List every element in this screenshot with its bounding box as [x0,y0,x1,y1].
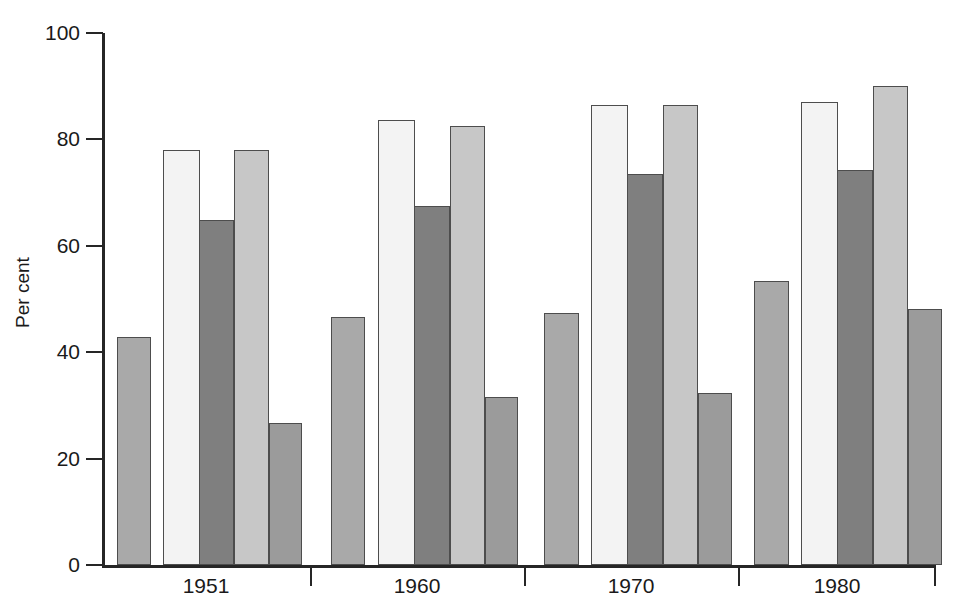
y-axis-tick-label: 100 [32,22,80,43]
bar [801,102,838,565]
bar [414,206,450,565]
bar [331,317,365,565]
x-axis-end-tick [934,568,936,586]
y-axis-tick-label: 0 [32,554,80,575]
x-axis-group-label: 1970 [561,574,701,598]
x-axis-separator-tick [738,568,740,586]
y-axis-tick-label-wrap: 0 [22,554,80,575]
bar [627,174,663,565]
bar [117,337,151,565]
y-axis-tick [86,245,103,247]
x-axis-group-label: 1951 [136,574,276,598]
bar [378,120,415,565]
bar-chart: Per cent 020406080100 1951196019701980 [0,0,970,616]
bar [269,423,302,565]
bar [873,86,908,565]
y-axis-line [102,33,105,565]
bar [663,105,698,565]
y-axis-tick-label: 20 [32,448,80,469]
bar [754,281,789,565]
y-axis-tick-label: 40 [32,341,80,362]
bar [591,105,628,565]
bar [199,220,234,565]
y-axis-tick [86,564,103,566]
x-axis-line [102,565,936,568]
bar [908,309,942,565]
x-axis-separator-tick [310,568,312,586]
bar [234,150,269,565]
y-axis-tick-label-wrap: 80 [22,128,80,149]
x-axis-separator-tick [524,568,526,586]
y-axis-tick-label: 60 [32,235,80,256]
y-axis-tick [86,458,103,460]
bar [485,397,518,565]
y-axis-tick [86,138,103,140]
y-axis-tick-label-wrap: 20 [22,448,80,469]
y-axis-tick-label-wrap: 100 [22,22,80,43]
bar [544,313,579,565]
x-axis-group-label: 1960 [347,574,487,598]
y-axis-tick-label-wrap: 60 [22,235,80,256]
bar [698,393,732,565]
bar [450,126,485,565]
y-axis-tick-label: 80 [32,128,80,149]
y-axis-tick [86,32,103,34]
y-axis-tick [86,351,103,353]
y-axis-tick-label-wrap: 40 [22,341,80,362]
bar [837,170,873,565]
bar [163,150,200,565]
x-axis-group-label: 1980 [767,574,907,598]
bars-layer [0,0,970,616]
